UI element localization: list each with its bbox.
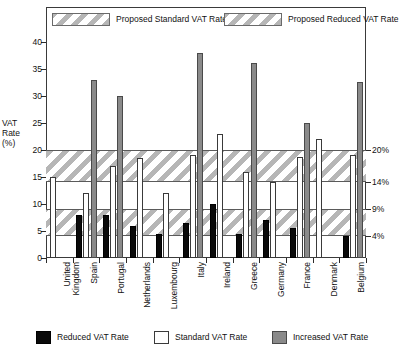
x-axis-tick bbox=[206, 258, 207, 263]
x-axis-tick bbox=[153, 258, 154, 263]
bar-standard-belgium bbox=[350, 155, 356, 258]
x-axis-tick bbox=[126, 258, 127, 263]
bar-standard-denmark bbox=[316, 139, 322, 258]
bar-standard-united-kingdom bbox=[50, 177, 56, 258]
right-tick-label: 4% bbox=[372, 232, 384, 241]
right-tick-label: 9% bbox=[372, 205, 384, 214]
series-legend: Reduced VAT RateStandard VAT RateIncreas… bbox=[36, 330, 356, 346]
bar-increased-belgium bbox=[357, 82, 363, 258]
proposal-legend-label: Proposed Standard VAT Rate bbox=[116, 14, 227, 24]
bar-standard-france bbox=[297, 157, 303, 258]
series-legend-label: Standard VAT Rate bbox=[175, 332, 247, 342]
x-axis-tick bbox=[179, 258, 180, 263]
x-axis-tick bbox=[286, 258, 287, 263]
y-tick-label: 15 bbox=[16, 173, 42, 182]
series-legend-item: Standard VAT Rate bbox=[154, 330, 247, 344]
y-tick-label: 40 bbox=[16, 38, 42, 47]
bar-standard-germany bbox=[270, 182, 276, 258]
bar-increased-portugal bbox=[117, 96, 123, 258]
proposal-legend-item: Proposed Reduced VAT Rate bbox=[224, 12, 399, 26]
bar-standard-luxembourg bbox=[163, 193, 169, 258]
x-axis-label-italy: Italy bbox=[197, 262, 206, 278]
bar-reduced-italy bbox=[183, 223, 189, 258]
bar-standard-portugal bbox=[110, 166, 116, 258]
x-axis-label-denmark: Denmark bbox=[330, 262, 339, 296]
x-axis-tick bbox=[313, 258, 314, 263]
bar-increased-greece bbox=[251, 63, 257, 258]
hatched-band-swatch bbox=[52, 13, 110, 26]
bar-reduced-luxembourg bbox=[156, 234, 162, 258]
bar-reduced-belgium bbox=[343, 236, 349, 258]
x-axis-tick bbox=[46, 258, 47, 263]
bar-reduced-france bbox=[290, 228, 296, 258]
y-tick-label: 30 bbox=[16, 92, 42, 101]
x-axis-label-luxembourg: Luxembourg bbox=[170, 262, 179, 309]
proposal-legend-item: Proposed Standard VAT Rate bbox=[52, 12, 227, 26]
y-tick-label: 20 bbox=[16, 146, 42, 155]
x-axis-label-portugal: Portugal bbox=[117, 262, 126, 294]
series-legend-item: Increased VAT Rate bbox=[272, 330, 368, 344]
x-axis-label-germany: Germany bbox=[277, 262, 286, 297]
y-axis-title-line-2: Rate bbox=[2, 128, 42, 138]
gray-square-swatch bbox=[272, 331, 287, 344]
proposal-legend-label: Proposed Reduced VAT Rate bbox=[288, 14, 399, 24]
bar-reduced-portugal bbox=[103, 215, 109, 258]
x-axis-tick bbox=[366, 258, 367, 263]
bar-standard-spain bbox=[83, 193, 89, 258]
plot-area: 0510152025303540 20%14%9%4% bbox=[46, 31, 366, 258]
x-axis-label-greece: Greece bbox=[250, 262, 259, 290]
hatched-band-swatch bbox=[224, 13, 282, 26]
bar-standard-netherlands bbox=[137, 158, 143, 258]
y-tick-label: 10 bbox=[16, 200, 42, 209]
black-square-swatch bbox=[36, 331, 51, 344]
bar-standard-italy bbox=[190, 155, 196, 258]
x-axis-tick bbox=[99, 258, 100, 263]
y-tick-label: 25 bbox=[16, 119, 42, 128]
right-tick-label: 20% bbox=[372, 146, 389, 155]
right-tick-mark bbox=[366, 150, 371, 151]
y-tick-label: 0 bbox=[16, 254, 42, 263]
x-axis-label-belgium: Belgium bbox=[357, 262, 366, 293]
y-tick-label: 35 bbox=[16, 65, 42, 74]
bar-increased-spain bbox=[91, 80, 97, 258]
series-legend-label: Increased VAT Rate bbox=[293, 332, 368, 342]
bar-reduced-germany bbox=[263, 220, 269, 258]
series-legend-label: Reduced VAT Rate bbox=[57, 332, 129, 342]
x-axis-label-united-kingdom: UnitedKingdom bbox=[63, 262, 81, 296]
bar-reduced-ireland bbox=[210, 204, 216, 258]
right-tick-label: 14% bbox=[372, 178, 389, 187]
series-legend-item: Reduced VAT Rate bbox=[36, 330, 129, 344]
x-axis-tick bbox=[259, 258, 260, 263]
x-axis-tick bbox=[339, 258, 340, 263]
bar-reduced-greece bbox=[236, 234, 242, 258]
y-tick-label: 5 bbox=[16, 227, 42, 236]
x-axis-label-netherlands: Netherlands bbox=[143, 262, 152, 308]
white-square-swatch bbox=[154, 331, 169, 344]
bar-standard-greece bbox=[243, 172, 249, 258]
bar-reduced-netherlands bbox=[130, 226, 136, 258]
right-tick-mark bbox=[366, 209, 371, 210]
bar-increased-france bbox=[304, 123, 310, 258]
bar-standard-ireland bbox=[217, 134, 223, 258]
right-tick-mark bbox=[366, 236, 371, 237]
bar-reduced-spain bbox=[76, 215, 82, 258]
proposal-legend: Proposed Standard VAT RateProposed Reduc… bbox=[52, 12, 362, 27]
right-tick-mark bbox=[366, 182, 371, 183]
x-axis-label-ireland: Ireland bbox=[223, 262, 232, 288]
x-axis-tick bbox=[233, 258, 234, 263]
x-axis-label-spain: Spain bbox=[90, 262, 99, 284]
bar-increased-italy bbox=[197, 53, 203, 258]
x-axis-label-france: France bbox=[303, 262, 312, 288]
